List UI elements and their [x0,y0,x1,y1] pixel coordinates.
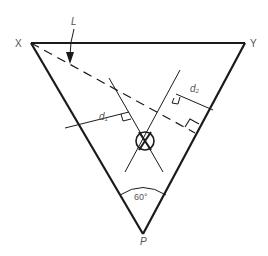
right-angle-mark-l [185,119,199,127]
label-angle: 60° [134,192,148,202]
label-d1-sub: 1 [105,116,108,122]
side-xp [31,43,143,234]
triangle-diagram: X Y P L 60° d1 d2 [0,0,268,256]
perpendicular-d1 [65,112,129,128]
label-x: X [15,38,22,49]
arrowhead-icon [66,52,74,64]
label-l: L [71,16,77,27]
label-d1: d1 [99,111,108,122]
right-angle-mark-d2 [172,97,180,104]
perpendicular-d2 [176,94,213,110]
label-d2-sub: 2 [195,88,200,94]
label-p: P [140,236,147,247]
crossing-line-a [109,78,163,172]
label-d2: d2 [190,83,200,94]
right-angle-mark-d1 [121,114,131,121]
side-yp [143,43,245,234]
label-y: Y [250,38,257,49]
